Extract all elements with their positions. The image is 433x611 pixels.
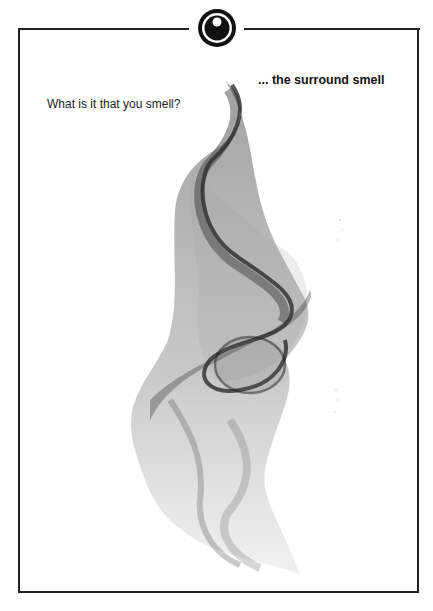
smoke-ribbon-illustration	[0, 0, 433, 611]
